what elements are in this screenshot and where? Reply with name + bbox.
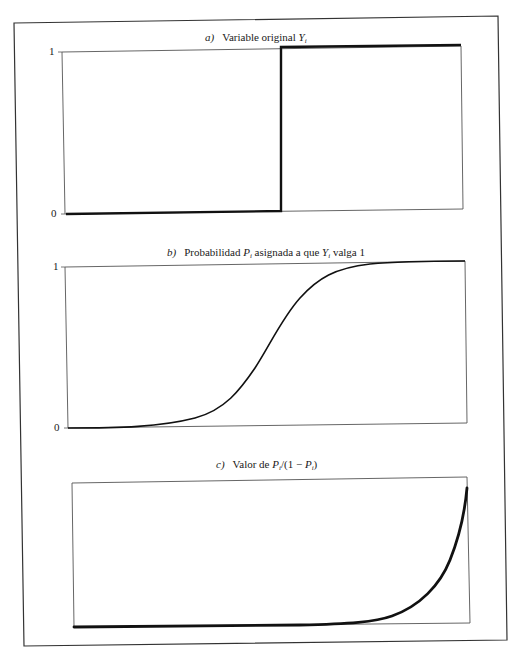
panel-b-ylabel-0: 0 — [54, 421, 60, 433]
panel-b-tag: b) — [167, 246, 176, 258]
panel-b-ylabel-1: 1 — [53, 260, 59, 272]
panel-a-ylabel-1: 1 — [49, 45, 55, 57]
figure-canvas — [0, 0, 518, 658]
panel-b-title: b)Probabilidad Pi asignada a que Yi valg… — [167, 246, 365, 260]
panel-a-step-line — [66, 45, 461, 214]
panel-c-title: c)Valor de Pi/(1 − Pi) — [216, 458, 317, 472]
panel-a-plot — [58, 45, 463, 214]
panel-a-tag: a) — [205, 31, 214, 43]
panel-c-odds-curve — [74, 488, 467, 627]
panel-c-tag: c) — [216, 458, 225, 470]
panel-b-axes-box — [65, 261, 467, 428]
panel-a-title: a)Variable original Yi — [205, 31, 307, 45]
panel-b-sigmoid-curve — [68, 261, 465, 428]
panel-a-axes-box — [62, 46, 463, 214]
panel-c-axes-box — [72, 477, 470, 627]
outer-frame — [14, 16, 507, 646]
panel-a-ylabel-0: 0 — [51, 207, 57, 219]
panel-c-plot — [72, 477, 470, 627]
panel-b-plot — [61, 261, 467, 428]
